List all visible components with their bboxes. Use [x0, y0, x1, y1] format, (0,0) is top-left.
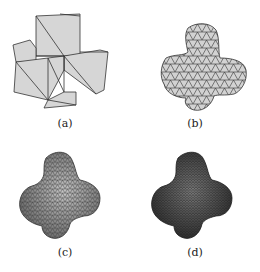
panel-d: (d) [130, 136, 260, 272]
caption-c: (c) [0, 246, 130, 259]
panel-a: (a) [0, 0, 130, 136]
subdivided-mesh-image [130, 0, 260, 136]
caption-d: (d) [130, 246, 260, 259]
cube-cross-mesh-image [0, 0, 130, 136]
panel-b: (b) [130, 0, 260, 136]
panel-c: (c) [0, 136, 130, 272]
caption-b: (b) [130, 117, 260, 130]
caption-a: (a) [0, 117, 130, 130]
